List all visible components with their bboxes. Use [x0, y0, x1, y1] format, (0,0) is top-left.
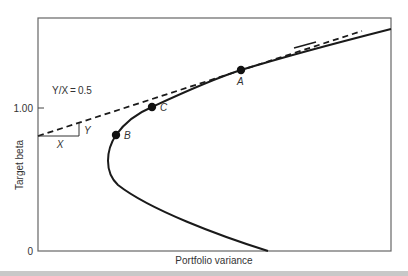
triangle-x-label: X — [56, 139, 64, 150]
slope-annotation: Y/X = 0.5 — [52, 85, 92, 96]
frontier-curve — [108, 29, 391, 251]
bottom-border-strip — [0, 271, 408, 276]
point-a-marker — [237, 66, 245, 74]
ytick-label-1: 1.00 — [14, 103, 34, 114]
point-b-label: B — [124, 130, 131, 141]
x-axis-label: Portfolio variance — [175, 255, 253, 266]
ytick-label-0: 0 — [27, 246, 33, 257]
triangle-y-label: Y — [84, 125, 92, 136]
y-axis-label: Target beta — [14, 140, 25, 190]
chart-canvas: 1.00 0 Target beta Portfolio variance X … — [0, 0, 408, 276]
tangent-marker — [294, 42, 316, 48]
tangent-dashed-line — [38, 31, 362, 136]
point-b-marker — [112, 131, 120, 139]
point-c-label: C — [160, 102, 168, 113]
plot-frame — [38, 18, 391, 251]
point-c-marker — [148, 103, 156, 111]
point-a-label: A — [236, 76, 244, 87]
